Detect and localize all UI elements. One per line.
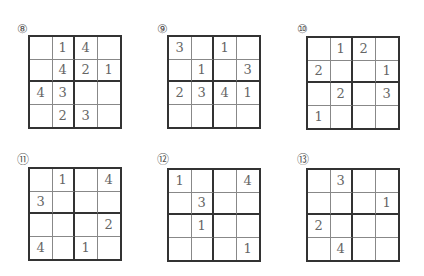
grid-cell: 1 <box>75 237 98 260</box>
puzzle-grid: 3124 <box>306 168 400 262</box>
grid-cell: 1 <box>192 215 215 238</box>
grid-cell: 2 <box>98 214 121 237</box>
grid-cell: 1 <box>376 193 399 216</box>
grid-cell: 2 <box>75 60 98 83</box>
grid-cell <box>192 170 215 193</box>
grid-cell: 4 <box>30 82 53 105</box>
grid-cell <box>214 60 237 83</box>
puzzle-number-label: ⑨ <box>157 22 168 36</box>
grid-cell <box>214 215 237 238</box>
grid-cell <box>30 214 53 237</box>
grid-cell <box>376 238 399 261</box>
grid-cell: 3 <box>53 82 76 105</box>
grid-cell: 4 <box>53 60 76 83</box>
grid-cell <box>75 192 98 215</box>
grid-cell <box>237 215 260 238</box>
grid-cell <box>192 238 215 261</box>
grid-cell <box>98 105 121 128</box>
grid-cell: 1 <box>376 61 399 84</box>
puzzle-number-label: ⑪ <box>17 153 29 167</box>
grid-cell <box>308 83 331 106</box>
grid-cell <box>30 37 53 60</box>
grid-cell: 4 <box>214 82 237 105</box>
grid-cell <box>169 60 192 83</box>
grid-cell: 4 <box>30 237 53 260</box>
grid-cell <box>331 215 354 238</box>
grid-cell <box>353 215 376 238</box>
grid-cell: 3 <box>30 192 53 215</box>
grid-cell: 1 <box>192 60 215 83</box>
grid-cell <box>353 83 376 106</box>
puzzle-number-label: ⑧ <box>17 22 28 36</box>
grid-cell: 1 <box>214 37 237 60</box>
grid-cell <box>75 82 98 105</box>
grid-cell <box>353 193 376 216</box>
grid-cell <box>30 169 53 192</box>
grid-cell <box>353 238 376 261</box>
grid-cell: 2 <box>169 82 192 105</box>
puzzle-number-label: ⑬ <box>297 153 309 167</box>
grid-cell: 3 <box>192 193 215 216</box>
grid-cell <box>237 193 260 216</box>
grid-cell <box>331 193 354 216</box>
grid-cell <box>353 106 376 129</box>
grid-cell: 4 <box>75 37 98 60</box>
puzzle-grid: 144214323 <box>28 35 122 129</box>
grid-cell <box>331 61 354 84</box>
puzzle-grid: 31132341 <box>167 35 261 129</box>
grid-cell: 1 <box>237 82 260 105</box>
puzzle-grid: 143241 <box>28 167 122 261</box>
grid-cell <box>308 193 331 216</box>
grid-cell <box>308 38 331 61</box>
grid-cell: 4 <box>237 170 260 193</box>
grid-cell <box>30 60 53 83</box>
grid-cell: 1 <box>169 170 192 193</box>
grid-cell: 1 <box>331 38 354 61</box>
grid-cell <box>376 170 399 193</box>
grid-cell <box>353 61 376 84</box>
puzzle-grid: 1221231 <box>306 36 400 130</box>
grid-cell <box>98 192 121 215</box>
grid-cell <box>214 238 237 261</box>
grid-cell: 2 <box>331 83 354 106</box>
grid-cell: 3 <box>237 60 260 83</box>
grid-cell <box>53 237 76 260</box>
grid-cell <box>214 105 237 128</box>
grid-cell <box>98 82 121 105</box>
grid-cell <box>169 193 192 216</box>
grid-cell: 1 <box>237 238 260 261</box>
grid-cell: 2 <box>308 61 331 84</box>
puzzle-grid: 14311 <box>167 168 261 262</box>
grid-cell <box>169 105 192 128</box>
grid-cell: 3 <box>169 37 192 60</box>
grid-cell: 2 <box>308 215 331 238</box>
grid-cell <box>53 214 76 237</box>
grid-cell <box>308 170 331 193</box>
grid-cell <box>30 105 53 128</box>
grid-cell <box>214 170 237 193</box>
grid-cell: 2 <box>53 105 76 128</box>
grid-cell <box>169 215 192 238</box>
puzzle-number-label: ⑩ <box>297 22 308 36</box>
grid-cell <box>331 106 354 129</box>
grid-cell <box>237 37 260 60</box>
grid-cell <box>98 37 121 60</box>
grid-cell: 1 <box>53 169 76 192</box>
grid-cell <box>75 214 98 237</box>
grid-cell: 3 <box>376 83 399 106</box>
grid-cell <box>192 37 215 60</box>
grid-cell <box>376 106 399 129</box>
grid-cell <box>214 193 237 216</box>
grid-cell <box>192 105 215 128</box>
grid-cell: 4 <box>98 169 121 192</box>
grid-cell: 1 <box>308 106 331 129</box>
grid-cell <box>53 192 76 215</box>
grid-cell <box>353 170 376 193</box>
grid-cell: 3 <box>331 170 354 193</box>
grid-cell <box>98 237 121 260</box>
grid-cell <box>308 238 331 261</box>
grid-cell <box>237 105 260 128</box>
grid-cell: 3 <box>75 105 98 128</box>
grid-cell <box>376 38 399 61</box>
grid-cell: 1 <box>53 37 76 60</box>
